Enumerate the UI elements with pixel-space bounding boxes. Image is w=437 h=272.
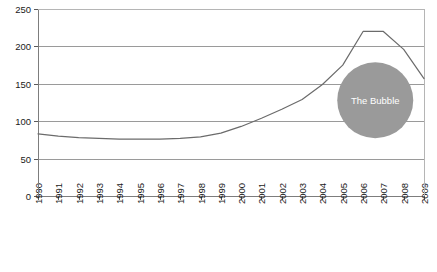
y-tick-label-0: 0: [26, 191, 31, 202]
y-tick-label-200: 200: [15, 41, 31, 52]
y-tick-label-250: 250: [15, 4, 31, 15]
x-tick-label-2002: 2002: [277, 183, 288, 204]
x-tick-label-1995: 1995: [135, 183, 146, 204]
x-tick-label-2006: 2006: [358, 183, 369, 204]
x-tick-label-1998: 1998: [196, 183, 207, 204]
y-tick-label-100: 100: [15, 116, 31, 127]
line-chart-svg: 050100150200250 199019911992199319941995…: [0, 0, 437, 272]
x-tick-label-1997: 1997: [175, 183, 186, 204]
chart-container: 050100150200250 199019911992199319941995…: [0, 0, 437, 272]
x-tick-label-2004: 2004: [317, 183, 328, 204]
x-tick-label-2005: 2005: [338, 183, 349, 204]
x-tick-label-1991: 1991: [53, 183, 64, 204]
y-tick-label-50: 50: [20, 154, 31, 165]
x-tick-label-2007: 2007: [378, 183, 389, 204]
x-tick-label-1993: 1993: [94, 183, 105, 204]
bubble-annotation-label: The Bubble: [351, 95, 400, 106]
x-tick-label-1999: 1999: [216, 183, 227, 204]
y-axis-ticks-group: 050100150200250: [15, 4, 38, 202]
x-tick-label-2001: 2001: [256, 183, 267, 204]
x-tick-label-1992: 1992: [74, 183, 85, 204]
x-tick-label-1996: 1996: [155, 183, 166, 204]
x-axis-ticks-group: 1990199119921993199419951996199719981999…: [33, 183, 430, 204]
y-tick-label-150: 150: [15, 79, 31, 90]
x-tick-label-1994: 1994: [114, 183, 125, 204]
x-tick-label-2008: 2008: [399, 183, 410, 204]
x-tick-label-2003: 2003: [297, 183, 308, 204]
annotation-group: The Bubble: [337, 62, 413, 138]
x-tick-label-2000: 2000: [236, 183, 247, 204]
